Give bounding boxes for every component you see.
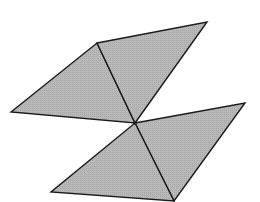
triangles-diagram	[0, 0, 260, 202]
center-point	[133, 121, 136, 124]
diagram-canvas	[0, 0, 260, 202]
triangle-group	[11, 22, 245, 201]
